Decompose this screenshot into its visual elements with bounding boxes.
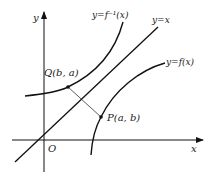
point-p-label: P(a, b) (107, 113, 140, 123)
inverse-function-diagram: y x O y=f⁻¹(x) y=x y=f(x) Q(b, a) P(a, b… (0, 0, 212, 181)
point-p (99, 115, 103, 119)
diagram-graphics (0, 0, 212, 181)
inverse-function-curve (25, 22, 123, 96)
function-curve (91, 63, 165, 155)
point-q (66, 85, 70, 89)
x-axis-label: x (191, 144, 197, 154)
origin-label: O (48, 144, 56, 154)
segment-qp (68, 87, 101, 117)
y-axis-label: y (33, 13, 39, 23)
function-label: y=f(x) (166, 58, 194, 67)
inverse-function-label: y=f⁻¹(x) (92, 11, 128, 20)
point-q-label: Q(b, a) (44, 68, 79, 78)
identity-line-label: y=x (152, 16, 170, 25)
